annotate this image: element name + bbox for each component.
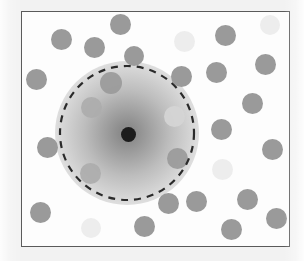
figure-root — [0, 0, 304, 261]
boundary-svg — [22, 12, 290, 247]
plot-frame — [21, 11, 290, 247]
source-point — [121, 127, 136, 142]
